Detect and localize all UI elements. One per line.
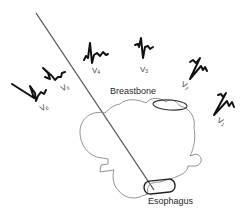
ecg-waveform-v6 [12,84,46,101]
lead-label-v4: V4 [92,67,100,75]
ecg-waveform-v4 [84,43,108,63]
ecg-waveform-v1 [214,93,234,115]
lead-label-v3: V3 [140,66,148,74]
ecg-waveform-v2 [190,58,207,79]
axis-line [36,13,154,190]
breastbone-shape [153,99,188,111]
breastbone-label: Breastbone [110,87,156,96]
esophagus-label: Esophagus [148,197,193,206]
heart-outline [80,98,201,198]
ecg-waveform-v3 [135,38,153,58]
ecg-waveform-v5 [43,68,65,80]
thorax-diagram [0,0,244,219]
